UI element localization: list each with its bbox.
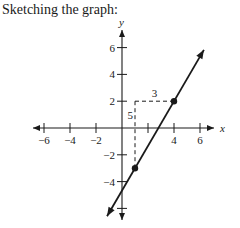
x-tick-label: −2	[90, 134, 102, 146]
x-tick-label: −6	[38, 134, 50, 146]
data-point	[171, 98, 177, 104]
x-tick-label: 4	[171, 134, 177, 146]
annotation-rise-label: 5	[128, 109, 134, 121]
y-tick-label: −2	[103, 149, 115, 161]
y-tick-label: 6	[110, 42, 116, 54]
x-tick-label: −4	[64, 134, 76, 146]
x-axis-left-arrow	[33, 125, 40, 131]
y-tick-label: 4	[110, 68, 116, 80]
annotation-run-label: 3	[152, 87, 158, 99]
y-axis-label: y	[118, 16, 124, 28]
series-arrow-end	[196, 50, 204, 60]
y-axis-bottom-arrow	[119, 213, 125, 220]
x-axis-right-arrow	[207, 125, 214, 131]
x-tick-label: 6	[197, 134, 203, 146]
y-axis-top-arrow	[119, 30, 125, 37]
y-tick-label: 2	[110, 95, 116, 107]
x-axis-label: x	[219, 122, 225, 134]
chart: xy−6−4−246642−2−435	[0, 0, 240, 228]
series-arrow-start	[107, 207, 115, 217]
y-tick-label: −4	[103, 176, 115, 188]
data-point	[132, 165, 138, 171]
